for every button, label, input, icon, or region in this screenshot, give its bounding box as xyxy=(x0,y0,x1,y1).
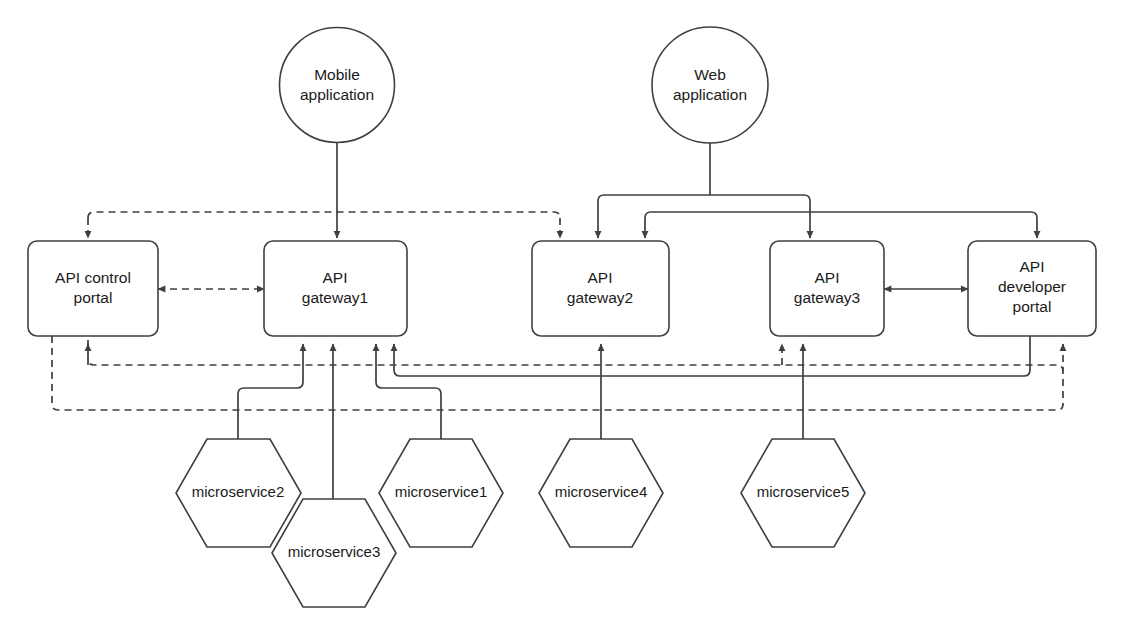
web-application-label-line1: Web xyxy=(694,66,726,83)
node-microservice5[interactable]: microservice5 xyxy=(741,439,865,547)
node-api-control-portal[interactable]: API control portal xyxy=(28,241,158,336)
node-microservice2[interactable]: microservice2 xyxy=(176,439,301,547)
node-mobile-application[interactable]: Mobile application xyxy=(280,28,395,143)
api-developer-portal-label-line2: developer xyxy=(998,278,1066,295)
web-application-label-line2: application xyxy=(673,86,747,103)
node-api-gateway3[interactable]: API gateway3 xyxy=(770,241,884,336)
microservice1-label: microservice1 xyxy=(395,483,488,500)
api-gateway1-label-line1: API xyxy=(323,269,348,286)
api-gateway1-label-line2: gateway1 xyxy=(302,289,368,306)
api-gateway2-label-line1: API xyxy=(588,269,613,286)
edge-web-app-bar-upper xyxy=(598,195,810,201)
node-microservice1[interactable]: microservice1 xyxy=(379,439,503,547)
node-microservice4[interactable]: microservice4 xyxy=(539,439,663,547)
node-microservice3[interactable]: microservice3 xyxy=(272,499,396,607)
edge-dashed-top-bus xyxy=(88,212,560,218)
api-developer-portal-label-line3: portal xyxy=(1013,298,1052,315)
microservice4-label: microservice4 xyxy=(555,483,648,500)
microservice5-label: microservice5 xyxy=(757,483,850,500)
edge-web-app-bar-lower xyxy=(645,212,1037,218)
architecture-diagram: Mobile application Web application API c… xyxy=(0,0,1122,638)
node-web-application[interactable]: Web application xyxy=(652,27,768,143)
node-api-gateway1[interactable]: API gateway1 xyxy=(264,241,407,336)
diagram-canvas: Mobile application Web application API c… xyxy=(0,0,1122,638)
node-api-developer-portal[interactable]: API developer portal xyxy=(968,241,1096,336)
edge-microservice1-to-gateway1 xyxy=(376,344,441,440)
api-control-portal-label-line2: portal xyxy=(74,289,113,306)
node-api-gateway2[interactable]: API gateway2 xyxy=(532,241,669,336)
edge-developer-portal-to-gateway1 xyxy=(394,336,1030,376)
microservice2-label: microservice2 xyxy=(192,483,285,500)
mobile-application-circle[interactable] xyxy=(280,28,395,143)
api-gateway3-label-line1: API xyxy=(815,269,840,286)
microservice3-label: microservice3 xyxy=(288,543,381,560)
web-application-circle[interactable] xyxy=(652,27,768,143)
api-developer-portal-label-line1: API xyxy=(1020,258,1045,275)
edge-microservice2-to-gateway1 xyxy=(238,344,303,440)
mobile-application-label-line1: Mobile xyxy=(314,66,360,83)
mobile-application-label-line2: application xyxy=(300,86,374,103)
api-gateway3-label-line2: gateway3 xyxy=(794,289,860,306)
api-gateway2-label-line2: gateway2 xyxy=(567,289,633,306)
edge-dashed-bus-mid xyxy=(88,340,1063,371)
api-control-portal-label-line1: API control xyxy=(55,269,131,286)
edge-dashed-bus-outer xyxy=(52,336,1063,410)
node-layer: Mobile application Web application API c… xyxy=(28,27,1096,607)
